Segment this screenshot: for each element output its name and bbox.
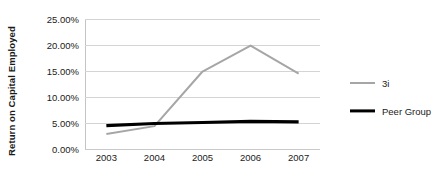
x-axis-tick-label: 2003 (96, 152, 117, 163)
legend-item-label: Peer Group (382, 106, 431, 117)
plot-area (85, 19, 320, 149)
legend-line-swatch (350, 78, 375, 88)
legend-line-swatch (350, 106, 375, 116)
y-axis-title: Return on Capital Employed (0, 0, 22, 181)
x-axis-tick-labels: 20032004200520062007 (85, 152, 320, 172)
y-axis-tick-label: 5.00% (52, 118, 79, 129)
x-axis-tick-label: 2005 (192, 152, 213, 163)
legend-item-label: 3i (382, 78, 389, 89)
chart-screenshot: Return on Capital Employed 0.00%5.00%10.… (0, 0, 445, 181)
y-axis-tick-labels: 0.00%5.00%10.00%15.00%20.00%25.00% (20, 0, 82, 181)
series-line (106, 121, 298, 125)
y-axis-tick-label: 15.00% (47, 66, 79, 77)
y-axis-tick-label: 10.00% (47, 92, 79, 103)
legend-item-3i[interactable]: 3i (350, 76, 389, 90)
y-axis-tick-label: 20.00% (47, 40, 79, 51)
x-axis-tick-label: 2004 (144, 152, 165, 163)
plot-series-svg (85, 19, 320, 149)
gridline (85, 149, 320, 150)
legend-item-peer-group[interactable]: Peer Group (350, 104, 431, 118)
chart-legend: 3iPeer Group (350, 76, 445, 130)
x-axis-tick-label: 2007 (288, 152, 309, 163)
x-axis-tick-label: 2006 (240, 152, 261, 163)
y-axis-tick-label: 0.00% (52, 144, 79, 155)
y-axis-title-text: Return on Capital Employed (6, 26, 17, 156)
y-axis-tick-label: 25.00% (47, 14, 79, 25)
